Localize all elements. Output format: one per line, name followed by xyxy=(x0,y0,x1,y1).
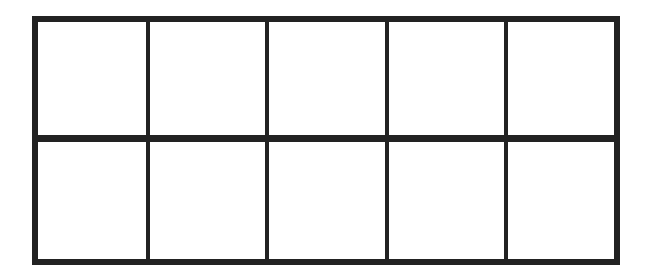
grid-cell-r1-c5 xyxy=(508,22,614,135)
ten-frame-grid xyxy=(32,16,620,265)
grid-cell-r1-c3 xyxy=(269,22,385,135)
grid-cell-r2-c2 xyxy=(150,142,265,259)
grid-cell-r2-c3 xyxy=(269,142,385,259)
grid-cell-r1-c4 xyxy=(389,22,504,135)
grid-cell-r1-c2 xyxy=(150,22,265,135)
grid-cell-r2-c5 xyxy=(508,142,614,259)
grid-divider-horizontal xyxy=(38,135,614,142)
grid-cell-r2-c4 xyxy=(389,142,504,259)
grid-cell-r2-c1 xyxy=(38,142,146,259)
grid-cell-r1-c1 xyxy=(38,22,146,135)
